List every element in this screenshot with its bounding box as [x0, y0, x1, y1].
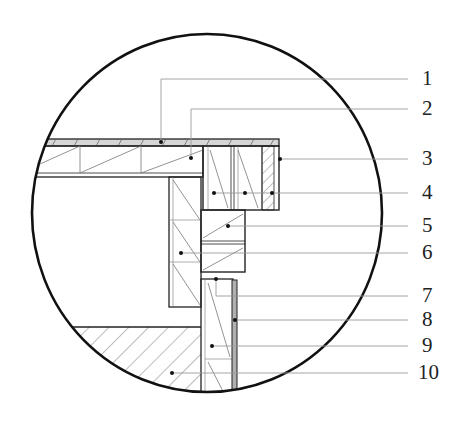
callout-2: 2: [422, 98, 433, 119]
callout-6: 6: [422, 242, 433, 263]
callout-9: 9: [422, 335, 433, 356]
callout-10: 10: [418, 362, 439, 383]
callout-7: 7: [422, 285, 433, 306]
top-posts: [203, 146, 279, 210]
floor-slab: [20, 327, 201, 407]
deck-plate: [20, 139, 279, 146]
callout-8: 8: [422, 309, 433, 330]
left-stud: [169, 177, 201, 307]
callout-5: 5: [422, 215, 433, 236]
callout-1: 1: [422, 68, 433, 89]
section-content: [20, 139, 279, 410]
joist-band: [20, 146, 203, 177]
blocking: [201, 210, 245, 272]
callout-3: 3: [422, 148, 433, 169]
detail-drawing: [0, 0, 469, 430]
callout-4: 4: [422, 182, 433, 203]
